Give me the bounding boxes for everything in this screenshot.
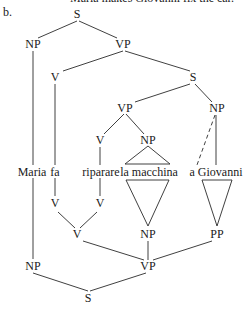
node-vp-embedded: VP [117, 102, 132, 114]
word-riparare: riparare [82, 166, 119, 178]
word-fa: fa [50, 166, 59, 178]
node-np-object-bottom: NP [140, 228, 155, 240]
node-vp-bottom: VP [140, 260, 155, 272]
word-la-macchina: la macchina [120, 166, 178, 178]
node-vp-matrix: VP [115, 38, 130, 50]
node-s-bottom: S [85, 292, 92, 304]
node-np-subject: NP [25, 38, 40, 50]
syntax-tree-diagram: Maria makes Giovanni fix the car. b. S N… [0, 0, 247, 310]
node-pp: PP [210, 228, 223, 240]
node-s-root: S [74, 8, 81, 20]
node-s-embedded: S [190, 71, 197, 83]
node-v-complex: V [73, 228, 82, 240]
sentence-gloss: Maria makes Giovanni fix the car. [70, 0, 234, 4]
node-np-embedded-subject: NP [209, 102, 224, 114]
node-v-riparare: V [96, 197, 105, 209]
example-label: b. [3, 6, 12, 18]
node-np-subject-bottom: NP [25, 260, 40, 272]
node-v-fa: V [51, 197, 60, 209]
word-maria: Maria [18, 166, 47, 178]
node-v-embedded: V [96, 134, 105, 146]
word-a-giovanni: a Giovanni [190, 166, 243, 178]
node-v-matrix: V [51, 71, 60, 83]
node-np-object: NP [140, 134, 155, 146]
